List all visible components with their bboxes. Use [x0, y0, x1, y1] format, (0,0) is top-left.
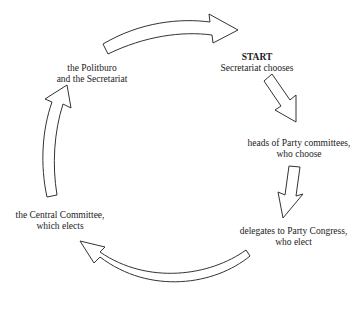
arrow-heads-to-delegates — [278, 166, 303, 218]
start-title: START — [207, 52, 307, 63]
arrow-delegates-to-central — [80, 241, 250, 282]
node-start: START Secretariat chooses — [207, 52, 307, 74]
heads-line2: who choose — [237, 149, 361, 160]
node-politburo: the Politburo and the Secretariat — [44, 63, 140, 85]
node-central: the Central Committee, which elects — [10, 210, 110, 232]
start-text: Secretariat chooses — [207, 63, 307, 74]
arrow-start-to-heads — [264, 74, 296, 122]
politburo-line1: the Politburo — [44, 63, 140, 74]
arrow-central-to-politburo — [43, 85, 71, 197]
delegates-line1: delegates to Party Congress, — [226, 226, 361, 237]
heads-line1: heads of Party committees, — [237, 138, 361, 149]
node-delegates: delegates to Party Congress, who elect — [226, 226, 361, 248]
politburo-line2: and the Secretariat — [44, 74, 140, 85]
central-line1: the Central Committee, — [10, 210, 110, 221]
arrow-politburo-to-start — [103, 14, 238, 54]
central-line2: which elects — [10, 221, 110, 232]
delegates-line2: who elect — [226, 237, 361, 248]
node-heads: heads of Party committees, who choose — [237, 138, 361, 160]
